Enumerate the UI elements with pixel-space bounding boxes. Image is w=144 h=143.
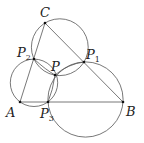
point-C [44, 22, 47, 25]
point-B [122, 101, 125, 104]
point-P3 [47, 101, 50, 104]
miquel-diagram: C P2 P P1 A P3 B [0, 0, 144, 143]
circle-C-P2-P1 [31, 19, 88, 76]
label-C: C [40, 5, 50, 20]
label-P1: P1 [85, 47, 100, 64]
point-P1 [83, 61, 86, 64]
point-P [54, 74, 57, 77]
point-A [19, 101, 22, 104]
label-P2: P2 [16, 45, 31, 62]
side-CA [20, 23, 45, 102]
label-A: A [5, 105, 15, 120]
label-B: B [125, 104, 136, 119]
label-P: P [50, 59, 60, 74]
point-P2 [33, 58, 36, 61]
label-P3: P3 [39, 106, 54, 123]
